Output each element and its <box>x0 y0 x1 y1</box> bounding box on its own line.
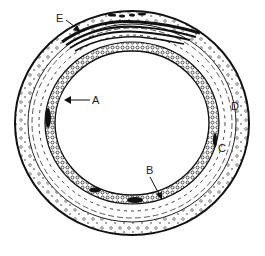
figure-caption <box>10 250 260 256</box>
label-b: B <box>146 165 153 176</box>
label-c: C <box>218 143 226 154</box>
inner-lining <box>45 42 219 204</box>
label-a: A <box>92 95 99 106</box>
cross-section-diagram <box>0 0 265 256</box>
label-e: E <box>56 13 63 24</box>
label-d: D <box>231 101 239 112</box>
